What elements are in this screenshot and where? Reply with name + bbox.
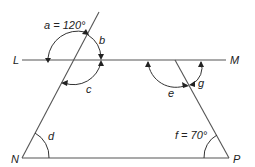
angle-c-label: c [86, 83, 92, 95]
angle-d-label: d [48, 130, 55, 142]
angle-e-arc [148, 62, 187, 87]
angle-b-arrow-icon [98, 54, 104, 60]
angle-g-label: g [198, 77, 205, 89]
angle-b-label: b [99, 34, 105, 46]
point-l-label: L [13, 54, 19, 66]
angle-e-label: e [168, 87, 174, 99]
angle-d-arc [35, 133, 49, 158]
angle-a-label: a = 120° [44, 19, 86, 31]
angle-a-arc [48, 31, 85, 58]
transversal-right [175, 60, 229, 158]
point-n-label: N [11, 153, 19, 165]
angle-c-arrow-icon [98, 60, 104, 66]
angle-f-label: f = 70° [175, 129, 208, 141]
angle-g-arrow-icon [198, 61, 204, 67]
point-p-label: P [233, 153, 241, 165]
angle-e-arrow-icon [145, 61, 151, 67]
angles-diagram: a = 120° b c d e f = 70° g L M N P [0, 0, 255, 167]
point-m-label: M [230, 54, 240, 66]
angle-c-arc [64, 62, 101, 85]
